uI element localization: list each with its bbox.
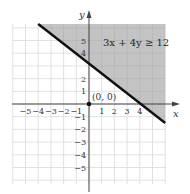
x-tick-label: −5	[20, 107, 32, 116]
inequality-graph: −5−4−3−2−112345421−1−2−3−4−5 x y 3x + 4y…	[0, 0, 190, 194]
y-tick-label: −3	[74, 138, 86, 147]
y-tick-label: 1	[81, 87, 86, 96]
x-axis-arrow-icon	[172, 102, 180, 107]
y-tick-label: 4	[81, 49, 86, 58]
y-axis-label: y	[78, 9, 85, 20]
x-axis-label: x	[173, 108, 179, 119]
test-point-dot	[87, 102, 92, 107]
x-tick-label: 3	[125, 107, 130, 116]
inequality-label: 3x + 4y ≥ 12	[103, 37, 169, 48]
y-tick-label: −5	[74, 164, 86, 173]
x-tick-label: −2	[58, 107, 70, 116]
x-tick-label: 2	[112, 107, 117, 116]
x-tick-label: −3	[45, 107, 57, 116]
x-tick-label: −4	[32, 107, 44, 116]
y-tick-label: 2	[81, 75, 86, 84]
y-tick-label: −1	[74, 113, 86, 122]
x-tick-label: 4	[137, 107, 142, 116]
y-tick-label: −2	[74, 125, 86, 134]
x-tick-label: 1	[99, 107, 104, 116]
y-tick-label: 5	[81, 37, 86, 46]
test-point-label: (0, 0)	[92, 92, 116, 102]
y-tick-label: −4	[74, 151, 86, 160]
y-axis-arrow-icon	[87, 10, 92, 18]
